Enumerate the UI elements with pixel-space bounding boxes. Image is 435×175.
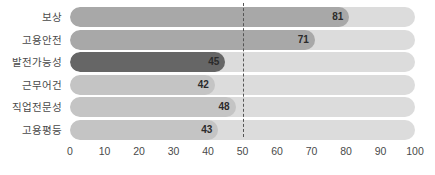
x-axis: 0102030405060708090100: [0, 140, 435, 175]
bar-row: 고용안전71: [0, 29, 435, 51]
bar-row: 발전가능성45: [0, 51, 435, 73]
category-label: 근무어건: [0, 74, 62, 96]
bar-fill[interactable]: [70, 7, 349, 27]
bar-value-label: 71: [279, 30, 309, 50]
bar-value-label: 81: [313, 7, 343, 27]
plot-area: 보상81고용안전71발전가능성45근무어건42직업전문성48고용평등43: [0, 0, 435, 140]
bar-row: 보상81: [0, 6, 435, 28]
bar-value-label: 45: [189, 52, 219, 72]
category-label: 고용평등: [0, 119, 62, 141]
bar-value-label: 43: [182, 120, 212, 140]
bar-row: 직업전문성48: [0, 96, 435, 118]
category-label: 발전가능성: [0, 51, 62, 73]
bar-row: 근무어건42: [0, 74, 435, 96]
bar-value-label: 42: [179, 75, 209, 95]
bar-value-label: 48: [200, 97, 230, 117]
reference-line-50: [243, 3, 244, 137]
bar-row: 고용평등43: [0, 119, 435, 141]
category-label: 직업전문성: [0, 96, 62, 118]
x-axis-tick: 100: [395, 145, 435, 157]
category-label: 보상: [0, 6, 62, 28]
category-label: 고용안전: [0, 29, 62, 51]
horizontal-bar-chart: 보상81고용안전71발전가능성45근무어건42직업전문성48고용평등43 010…: [0, 0, 435, 175]
